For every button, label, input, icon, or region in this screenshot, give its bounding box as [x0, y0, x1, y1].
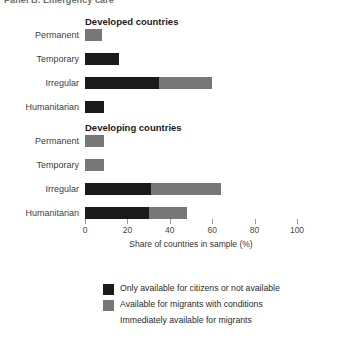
category-label: Irregular: [0, 184, 79, 194]
category-label: Temporary: [0, 160, 79, 170]
x-axis: 020406080100: [85, 224, 297, 225]
bar-row: Humanitarian: [0, 207, 341, 220]
bar-segment-only-available-for-citizens-or-not-available: [85, 207, 149, 219]
legend-label: Immediately available for migrants: [120, 315, 252, 325]
x-axis-title: Share of countries in sample (%): [85, 239, 297, 249]
bar-row: Temporary: [0, 53, 341, 66]
bar-segment-available-for-migrants-with-conditions: [159, 77, 212, 89]
group-title-developed: Developed countries: [85, 16, 178, 27]
stacked-bar: [85, 101, 297, 113]
bar-segment-only-available-for-citizens-or-not-available: [85, 77, 159, 89]
stacked-bar: [85, 77, 297, 89]
group-title-developing: Developing countries: [85, 122, 182, 133]
stacked-bar: [85, 135, 297, 147]
legend-swatch-icon: [103, 300, 114, 311]
bar-row: Permanent: [0, 135, 341, 148]
category-label: Permanent: [0, 30, 79, 40]
bar-row: Humanitarian: [0, 101, 341, 114]
bar-row: Temporary: [0, 159, 341, 172]
bar-segment-only-available-for-citizens-or-not-available: [85, 183, 151, 195]
axis-tick-label: 0: [83, 225, 88, 235]
bar-row: Irregular: [0, 183, 341, 196]
axis-tick-label: 100: [290, 225, 304, 235]
stacked-bar: [85, 29, 297, 41]
category-label: Humanitarian: [0, 208, 79, 218]
bar-segment-only-available-for-citizens-or-not-available: [85, 101, 104, 113]
bar-segment-available-for-migrants-with-conditions: [149, 207, 187, 219]
category-label: Irregular: [0, 78, 79, 88]
stacked-bar: [85, 183, 297, 195]
legend-label: Available for migrants with conditions: [120, 299, 263, 309]
bar-segment-available-for-migrants-with-conditions: [85, 159, 104, 171]
axis-tick-label: 20: [123, 225, 132, 235]
axis-tick-label: 60: [207, 225, 216, 235]
category-label: Temporary: [0, 54, 79, 64]
bar-segment-available-for-migrants-with-conditions: [85, 135, 104, 147]
axis-tick-label: 40: [165, 225, 174, 235]
bar-segment-only-available-for-citizens-or-not-available: [85, 53, 119, 65]
stacked-bar: [85, 207, 297, 219]
panel-title: Panel B. Emergency care: [4, 0, 114, 5]
legend-swatch-icon: [103, 284, 114, 295]
bar-segment-available-for-migrants-with-conditions: [85, 29, 102, 41]
axis-tick-label: 80: [250, 225, 259, 235]
category-label: Humanitarian: [0, 102, 79, 112]
bar-segment-available-for-migrants-with-conditions: [151, 183, 221, 195]
category-label: Permanent: [0, 136, 79, 146]
legend-label: Only available for citizens or not avail…: [120, 283, 280, 293]
bar-row: Irregular: [0, 77, 341, 90]
stacked-bar: [85, 53, 297, 65]
bar-row: Permanent: [0, 29, 341, 42]
legend-swatch-icon: [103, 316, 114, 327]
stacked-bar: [85, 159, 297, 171]
